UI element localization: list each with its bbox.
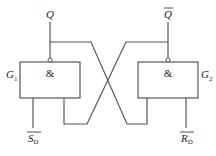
- sd-label: SD: [28, 132, 39, 146]
- q-label: Q: [46, 8, 54, 20]
- gate-g1-output-bubble: [48, 58, 52, 62]
- rs-flip-flop-diagram: & G1 & G2 Q Q SD RD: [0, 0, 216, 156]
- gate-g2-and-symbol: &: [164, 67, 173, 79]
- qbar-label: Q: [164, 8, 172, 20]
- gate-g1-and-symbol: &: [46, 67, 55, 79]
- gate-g2-label: G2: [201, 68, 213, 83]
- gate-g2-output-bubble: [166, 58, 170, 62]
- rd-label: RD: [180, 132, 193, 146]
- gate-g1-label: G1: [6, 68, 18, 83]
